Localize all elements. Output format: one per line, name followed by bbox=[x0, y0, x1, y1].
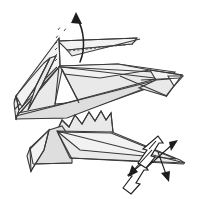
thin-arrow-northeast-head bbox=[169, 140, 178, 151]
origami-figure bbox=[0, 0, 197, 199]
crease-mark-2 bbox=[64, 27, 67, 31]
thin-arrow-southeast-head bbox=[161, 171, 170, 182]
upper-flap-group bbox=[58, 38, 140, 56]
origami-diagram-canvas bbox=[0, 0, 197, 199]
tail-group bbox=[57, 131, 185, 164]
crease-mark-3 bbox=[56, 34, 59, 38]
crease-mark-1 bbox=[58, 26, 61, 30]
curved-fold-arrow-head bbox=[71, 12, 82, 24]
